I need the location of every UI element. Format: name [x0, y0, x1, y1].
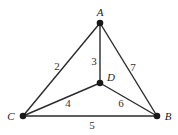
edge-weight-label: 5	[89, 119, 95, 131]
vertex-label-b: B	[165, 110, 172, 122]
edge-weight-label: 2	[54, 60, 60, 72]
vertex-d	[97, 80, 104, 87]
edge-c-d	[23, 83, 100, 116]
edge-a-b	[100, 23, 157, 116]
vertex-c	[20, 113, 27, 120]
vertex-label-d: D	[106, 71, 115, 83]
edge-weight-label: 7	[130, 61, 136, 73]
edge-weight-label: 6	[118, 97, 124, 109]
edge-weight-label: 4	[65, 97, 71, 109]
vertex-label-c: C	[7, 110, 15, 122]
edge-weight-label: 3	[91, 55, 97, 67]
vertex-b	[154, 113, 161, 120]
vertex-label-a: A	[96, 6, 104, 18]
weighted-graph-diagram: 237465ABCD	[0, 0, 178, 135]
vertex-a	[97, 20, 104, 27]
edge-d-b	[100, 83, 157, 116]
edge-a-c	[23, 23, 100, 116]
